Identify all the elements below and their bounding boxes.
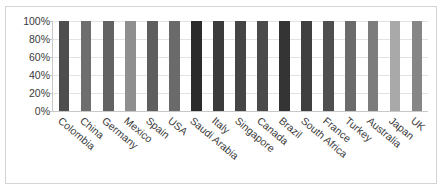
bar[interactable] [345,21,356,111]
bar-slot [141,21,163,111]
bar[interactable] [301,21,312,111]
bar[interactable] [368,21,379,111]
x-axis-category-slot: Japan [383,113,405,181]
plot-area [52,21,428,112]
x-axis-category-slot: Spain [140,113,162,181]
x-axis-category-slot: Germany [96,113,118,181]
bar[interactable] [412,21,423,111]
x-axis-category-slot: Australia [361,113,383,181]
bar-slot [274,21,296,111]
bar[interactable] [257,21,268,111]
y-axis-tick-label: 20% [10,88,50,98]
bar-slot [252,21,274,111]
x-axis-category-slot: Saudi Arabia [184,113,206,181]
y-axis-tick-label: 40% [10,70,50,80]
chart-frame: 100%80%60%40%20%0% ColombiaChinaGermanyM… [5,6,437,184]
x-axis-category-slot: Mexico [118,113,140,181]
x-axis-category-slot: Brazil [273,113,295,181]
bar[interactable] [279,21,290,111]
bar[interactable] [103,21,114,111]
x-axis-category-slot: Italy [206,113,228,181]
bar-slot [163,21,185,111]
x-axis-category-slot: South Africa [295,113,317,181]
bar[interactable] [125,21,136,111]
y-axis-tick-label: 60% [10,52,50,62]
y-axis-tick-label: 80% [10,34,50,44]
bar-slot [296,21,318,111]
x-axis-category-slot: China [74,113,96,181]
bar-slot [207,21,229,111]
bar-slot [185,21,207,111]
x-axis-tick-label: UK [409,115,427,133]
x-axis: ColombiaChinaGermanyMexicoSpainUSASaudi … [52,113,427,181]
y-axis-tick [50,111,53,112]
x-axis-category-slot: France [317,113,339,181]
bar[interactable] [147,21,158,111]
bar[interactable] [169,21,180,111]
bar[interactable] [213,21,224,111]
bar-series [53,21,428,111]
x-axis-category-slot: Turkey [339,113,361,181]
bar-slot [53,21,75,111]
bar-slot [75,21,97,111]
x-axis-category-slot: Canada [251,113,273,181]
bar-slot [97,21,119,111]
x-axis-category-slot: Singapore [229,113,251,181]
y-axis-tick-label: 0% [10,106,50,116]
chart-plot-wrapper: 100%80%60%40%20%0% ColombiaChinaGermanyM… [6,7,436,183]
x-axis-category-slot: Colombia [52,113,74,181]
bar-slot [362,21,384,111]
bar[interactable] [323,21,334,111]
bar-slot [406,21,428,111]
y-axis-tick-label: 100% [10,16,50,26]
bar-slot [340,21,362,111]
bar-slot [119,21,141,111]
bar[interactable] [390,21,401,111]
x-axis-category-slot: USA [162,113,184,181]
bar[interactable] [59,21,70,111]
x-axis-category-slot: UK [405,113,427,181]
bar[interactable] [191,21,202,111]
y-axis: 100%80%60%40%20%0% [10,21,50,111]
bar-slot [384,21,406,111]
bar[interactable] [235,21,246,111]
bar-slot [318,21,340,111]
bar[interactable] [81,21,92,111]
bar-slot [230,21,252,111]
